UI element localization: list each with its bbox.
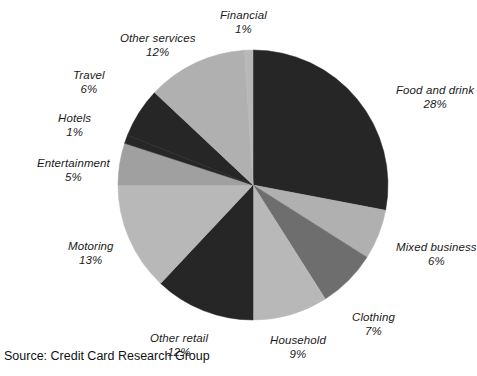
pie-slice-label-name: Other services [120, 32, 196, 46]
pie-slice-label-name: Household [270, 334, 326, 348]
pie-slice-label: Financial1% [220, 9, 267, 36]
pie-slice-label-name: Hotels [58, 112, 91, 126]
pie-slice-label: Other services12% [120, 32, 196, 59]
pie-slice-label-percent: 1% [220, 23, 267, 37]
pie-slice-label-percent: 1% [58, 126, 91, 140]
pie-slice-label-name: Travel [73, 69, 105, 83]
pie-slice[interactable] [253, 50, 388, 210]
pie-slice-label-percent: 28% [396, 98, 474, 112]
pie-slice-label: Food and drink28% [396, 84, 474, 111]
pie-slice-label-percent: 6% [396, 255, 477, 269]
pie-slice-label: Household9% [270, 334, 326, 361]
pie-slice-group [118, 50, 388, 320]
pie-slice-label-name: Clothing [352, 311, 395, 325]
pie-slice-label-name: Entertainment [37, 157, 110, 171]
pie-slice-label-percent: 9% [270, 348, 326, 362]
pie-slice-label: Travel6% [73, 69, 105, 96]
pie-slice-label: Clothing7% [352, 311, 395, 338]
pie-slice-label-percent: 13% [68, 254, 114, 268]
pie-slice-label: Entertainment5% [37, 157, 110, 184]
pie-slice-label: Mixed business6% [396, 241, 477, 268]
pie-slice-label-name: Motoring [68, 240, 114, 254]
pie-slice-label-percent: 12% [120, 46, 196, 60]
pie-slice-label: Hotels1% [58, 112, 91, 139]
pie-slice-label-percent: 6% [73, 83, 105, 97]
pie-slice-label-percent: 7% [352, 325, 395, 339]
source-note: Source: Credit Card Research Group [4, 349, 210, 363]
pie-slice-label-name: Financial [220, 9, 267, 23]
pie-slice-label-percent: 5% [37, 171, 110, 185]
pie-slice-label-name: Mixed business [396, 241, 477, 255]
pie-slice-label-name: Food and drink [396, 84, 474, 98]
pie-slice-label: Motoring13% [68, 240, 114, 267]
pie-slice-label-name: Other retail [150, 332, 208, 346]
